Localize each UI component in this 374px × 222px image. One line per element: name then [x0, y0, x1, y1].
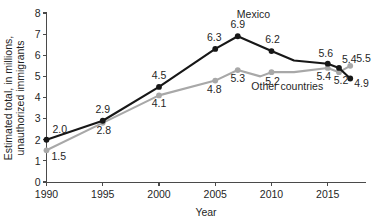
y-tick-label-3: 3: [35, 112, 41, 124]
series-annotations-group: MexicoOther countries: [237, 8, 323, 92]
y-axis-ticks: 012345678: [35, 7, 47, 188]
data-label-mexico-1990: 2.0: [53, 123, 68, 135]
other-countries-series-label: Other countries: [251, 80, 323, 92]
data-point-mexico-2005: [212, 46, 218, 52]
line-chart: 012345678 199019952000200520102015 Year …: [0, 0, 374, 222]
y-axis: 012345678: [35, 7, 47, 188]
series-line-other: [47, 66, 351, 151]
y-tick-label-5: 5: [35, 70, 41, 82]
data-label-mexico-2005: 6.3: [207, 31, 222, 43]
data-label-other-2017: 5.5: [356, 52, 371, 64]
data-point-mexico-1990: [44, 137, 50, 143]
x-tick-label-1995: 1995: [91, 188, 115, 200]
data-label-other-2005: 4.8: [207, 83, 222, 95]
data-label-mexico-2017: 4.9: [354, 77, 369, 89]
data-label-mexico-2000: 4.5: [152, 69, 167, 81]
x-tick-label-2015: 2015: [316, 188, 340, 200]
data-point-mexico-2016: [336, 65, 342, 71]
y-axis-title-line2: unauthorized immigrants: [14, 41, 26, 156]
y-axis-title: Estimated total, in millions, unauthoriz…: [2, 36, 26, 160]
data-point-mexico-2007: [235, 33, 241, 39]
data-label-other-1990: 1.5: [52, 150, 67, 162]
x-tick-label-2000: 2000: [147, 188, 171, 200]
x-axis-ticks: 199019952000200520102015: [35, 182, 340, 200]
data-point-mexico-2000: [156, 84, 162, 90]
chart-plot-area: 012345678 199019952000200520102015 Year …: [0, 0, 374, 222]
x-axis-title: Year: [195, 206, 217, 218]
y-tick-label-2: 2: [35, 134, 41, 146]
data-point-other-1990: [44, 147, 50, 153]
y-tick-label-8: 8: [35, 7, 41, 19]
x-tick-label-2010: 2010: [260, 188, 284, 200]
data-point-mexico-2010: [269, 48, 275, 54]
y-tick-label-1: 1: [35, 155, 41, 167]
x-axis: 199019952000200520102015: [35, 182, 366, 200]
y-tick-label-4: 4: [35, 91, 41, 103]
data-label-other-2000: 4.1: [152, 97, 167, 109]
data-point-mexico-1995: [100, 118, 106, 124]
y-axis-title-line1: Estimated total, in millions,: [2, 36, 14, 160]
y-tick-label-7: 7: [35, 28, 41, 40]
data-label-other-2007: 5.3: [230, 72, 245, 84]
data-label-mexico-2010: 6.2: [265, 33, 280, 45]
y-tick-label-0: 0: [35, 176, 41, 188]
y-tick-label-6: 6: [35, 49, 41, 61]
data-label-mexico-1995: 2.9: [95, 103, 110, 115]
data-label-mexico-2016: 5.4: [342, 53, 357, 65]
data-point-mexico-2015: [325, 61, 331, 67]
data-series-group: [44, 33, 354, 153]
data-label-other-1995: 2.8: [96, 124, 111, 136]
data-label-other-2016: 5.2: [334, 74, 349, 86]
x-tick-label-1990: 1990: [35, 188, 59, 200]
mexico-series-label: Mexico: [237, 8, 270, 20]
data-label-mexico-2015: 5.6: [318, 47, 333, 59]
x-tick-label-2005: 2005: [204, 188, 228, 200]
